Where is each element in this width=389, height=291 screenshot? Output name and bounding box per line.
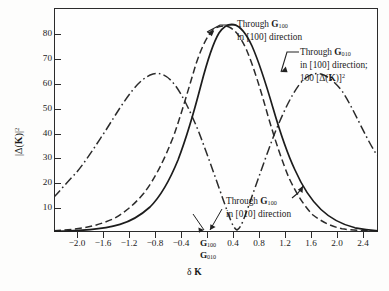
y-tick-label-30: 30 (26, 153, 52, 162)
annotation-g100-100-line2: in [100] direction (237, 32, 302, 43)
x-tick-label-0.4: 0.4 (220, 238, 246, 248)
y-tick-20 (54, 183, 61, 184)
y-tick-70 (54, 59, 61, 60)
annotation-g010-100-line1: Through G010 (300, 47, 368, 60)
annotation-g010-100-line3: 100 [Δ(K)]2 (300, 71, 368, 84)
y-tick-label-40: 40 (26, 129, 52, 138)
y-tick-label-10: 10 (26, 203, 52, 212)
y-tick-label-70: 70 (26, 54, 52, 63)
figure-container: 10 20 30 40 50 60 70 80 |Δ(K)|2 −2.0 −1.… (0, 0, 389, 291)
annotation-g100-010: Through G100 in [010] direction (226, 196, 291, 220)
annotation-g100-100-line1: Through G100 (237, 19, 302, 32)
x-tick-label-origin-g010: G010 (192, 250, 224, 260)
annotation-g100-010-line2: in [010] direction (226, 209, 291, 220)
y-tick-80 (54, 34, 61, 35)
x-tick-label-1.6: 1.6 (298, 238, 324, 248)
x-tick-label-0.8: 0.8 (246, 238, 272, 248)
y-tick-30 (54, 158, 61, 159)
y-tick-label-80: 80 (26, 29, 52, 38)
y-tick-label-20: 20 (26, 178, 52, 187)
y-tick-40 (54, 134, 61, 135)
y-axis-title-wrapper: |Δ(K)|2 (2, 90, 16, 160)
x-tick-label-1.2: 1.2 (272, 238, 298, 248)
annotation-g010-100: Through G010 in [100] direction; 100 [Δ(… (300, 47, 368, 83)
x-tick-label-2.4: 2.4 (350, 238, 376, 248)
y-axis-title: |Δ(K)|2 (13, 128, 24, 156)
y-tick-label-50: 50 (26, 104, 52, 113)
y-tick-60 (54, 84, 61, 85)
annotation-g100-010-line1: Through G100 (226, 196, 291, 209)
annotation-g100-100: Through G100 in [100] direction (237, 19, 302, 43)
y-tick-10 (54, 208, 61, 209)
x-axis-title: δ K (0, 266, 389, 277)
y-tick-50 (54, 109, 61, 110)
chart-curves (54, 8, 378, 232)
x-tick-label-2.0: 2.0 (324, 238, 350, 248)
annotation-g010-100-line2: in [100] direction; (300, 60, 368, 71)
y-tick-label-60: 60 (26, 79, 52, 88)
series-g010-100-dashdot (54, 73, 378, 230)
